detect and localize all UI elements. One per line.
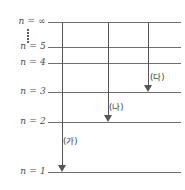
- level-line-n-3: [48, 92, 181, 93]
- level-label-n-1: n = 1: [0, 166, 46, 176]
- transition-da-label: (다): [150, 70, 165, 82]
- level-line-n-4: [48, 63, 181, 64]
- level-label-n-infinity: n = ∞: [0, 16, 46, 26]
- transition-na-arrowhead-icon: [104, 115, 112, 122]
- level-label-n-4: n = 4: [0, 57, 46, 67]
- level-line-n-1: [48, 172, 181, 173]
- level-line-n-infinity: [48, 22, 181, 23]
- dot-4: [27, 38, 29, 40]
- transition-da-shaft: [148, 22, 149, 86]
- level-label-n-3: n = 3: [0, 86, 46, 96]
- vertical-dots-icon: [26, 29, 30, 43]
- transition-ga-arrowhead-icon: [58, 165, 66, 172]
- dot-1: [27, 29, 29, 31]
- level-label-n-5: n = 5: [0, 41, 46, 51]
- transition-da-arrowhead-icon: [144, 85, 152, 92]
- dot-2: [27, 32, 29, 34]
- dot-3: [27, 35, 29, 37]
- level-line-n-5: [48, 47, 181, 48]
- transition-ga-label: (가): [63, 134, 78, 146]
- level-label-n-2: n = 2: [0, 116, 46, 126]
- transition-na-label: (나): [109, 100, 124, 112]
- energy-level-diagram: n = ∞ n = 5 n = 4 n = 3 n = 2 n = 1 (가) …: [0, 0, 185, 190]
- dot-5: [27, 41, 29, 43]
- level-line-n-2: [48, 122, 181, 123]
